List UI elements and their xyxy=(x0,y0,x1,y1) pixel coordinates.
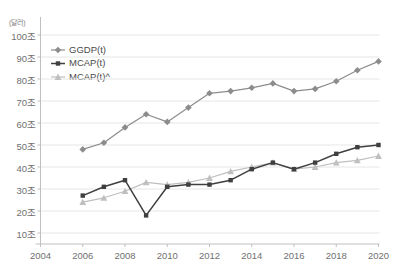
gridlines xyxy=(41,35,380,233)
data-point-marker xyxy=(206,90,213,97)
data-point-marker xyxy=(375,153,382,159)
data-point-marker xyxy=(271,160,275,164)
data-point-marker xyxy=(144,213,148,217)
data-point-marker xyxy=(312,86,319,93)
data-point-marker xyxy=(313,160,317,164)
data-point-marker xyxy=(354,67,361,74)
data-point-marker xyxy=(56,61,60,65)
data-point-marker xyxy=(164,119,171,126)
data-point-marker xyxy=(227,88,234,95)
data-point-marker xyxy=(355,145,359,149)
data-point-marker xyxy=(376,143,380,147)
data-point-marker xyxy=(123,178,127,182)
data-point-marker xyxy=(334,152,338,156)
data-point-marker xyxy=(207,182,211,186)
data-point-marker xyxy=(55,47,62,54)
series-line xyxy=(83,61,379,149)
data-point-marker xyxy=(186,182,190,186)
data-point-marker xyxy=(291,88,298,95)
data-point-marker xyxy=(228,178,232,182)
series-2 xyxy=(81,143,381,218)
data-point-marker xyxy=(375,58,382,65)
data-point-marker xyxy=(79,146,86,153)
legend-glyphs xyxy=(51,47,65,80)
data-series-group xyxy=(79,58,382,218)
data-point-marker xyxy=(185,104,192,111)
axis-lines xyxy=(36,17,380,247)
data-point-marker xyxy=(248,85,255,92)
data-point-marker xyxy=(165,185,169,189)
data-point-marker xyxy=(102,185,106,189)
data-point-marker xyxy=(81,193,85,197)
data-point-marker xyxy=(250,167,254,171)
data-point-marker xyxy=(143,111,150,118)
data-point-marker xyxy=(270,80,277,87)
data-point-marker xyxy=(292,167,296,171)
series-1 xyxy=(79,58,381,153)
